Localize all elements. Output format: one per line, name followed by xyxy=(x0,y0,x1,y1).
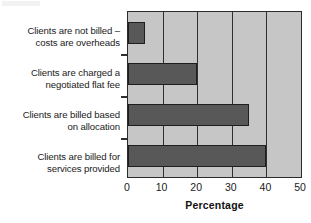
x-tick-label-2: 20 xyxy=(190,181,202,194)
category-label-3-line-1: services provided xyxy=(0,163,120,175)
category-label-1-line-0: Clients are charged a xyxy=(0,67,120,79)
x-tick-label-5: 50 xyxy=(294,181,306,194)
x-tick-label-1: 10 xyxy=(156,181,168,194)
bar-3 xyxy=(128,145,266,167)
gridline-40 xyxy=(266,12,267,177)
bar-0 xyxy=(128,22,145,44)
category-label-3: Clients are billed for services provided xyxy=(0,151,120,175)
category-label-0: Clients are not billed – costs are overh… xyxy=(0,25,120,49)
x-axis-tick-labels: 0 10 20 30 40 50 xyxy=(127,181,302,195)
category-label-2-line-1: on allocation xyxy=(0,121,120,133)
x-tick-label-0: 0 xyxy=(124,181,130,194)
x-tick-label-4: 40 xyxy=(260,181,272,194)
category-label-2-line-0: Clients are billed based xyxy=(0,109,120,121)
x-tick-label-3: 30 xyxy=(225,181,237,194)
scan-artifact xyxy=(2,1,40,6)
category-label-1: Clients are charged a negotiated flat fe… xyxy=(0,67,120,91)
x-axis-title: Percentage xyxy=(127,199,302,211)
category-label-0-line-1: costs are overheads xyxy=(0,37,120,49)
bar-chart: Clients are not billed – costs are overh… xyxy=(0,0,311,223)
category-label-1-line-1: negotiated flat fee xyxy=(0,79,120,91)
plot-area xyxy=(127,11,302,178)
bar-2 xyxy=(128,104,249,126)
category-axis-labels: Clients are not billed – costs are overh… xyxy=(0,11,124,178)
category-label-0-line-0: Clients are not billed – xyxy=(0,25,120,37)
category-label-2: Clients are billed based on allocation xyxy=(0,109,120,133)
bar-1 xyxy=(128,63,197,85)
category-label-3-line-0: Clients are billed for xyxy=(0,151,120,163)
